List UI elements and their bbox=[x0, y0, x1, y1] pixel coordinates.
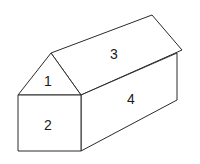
house-diagram: 1 2 3 4 bbox=[0, 0, 200, 164]
house-drawing bbox=[0, 0, 200, 164]
face-label-1: 1 bbox=[44, 74, 52, 88]
face-label-4: 4 bbox=[127, 92, 135, 106]
face-label-3: 3 bbox=[110, 47, 118, 61]
face-label-2: 2 bbox=[44, 118, 52, 132]
